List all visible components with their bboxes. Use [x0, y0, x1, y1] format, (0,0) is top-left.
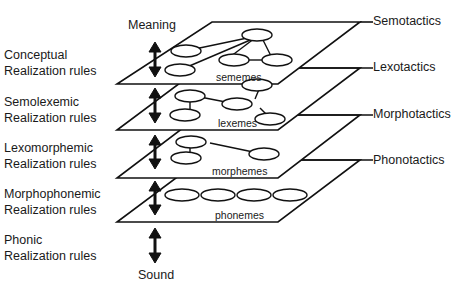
semolexemic-rules: Semolexemic Realization rules — [4, 94, 96, 126]
morpheme-node — [176, 136, 206, 148]
phoneme-node — [201, 189, 235, 201]
phonemes-label: phonemes — [215, 209, 264, 221]
phoneme-node — [165, 189, 199, 201]
lexeme-node — [255, 113, 285, 125]
lexeme-node — [222, 98, 252, 110]
morpheme-node — [171, 152, 201, 164]
conceptual-rules: Conceptual Realization rules — [4, 47, 96, 79]
phoneme-node — [273, 189, 307, 201]
lexeme-node — [175, 90, 205, 102]
sememe-node — [242, 29, 272, 41]
phoneme-node — [237, 189, 271, 201]
semotactics-label: Semotactics — [373, 13, 441, 29]
lexomorphemic-rules: Lexomorphemic Realization rules — [4, 140, 96, 172]
sememe-node — [165, 64, 195, 76]
lexeme-node — [170, 109, 200, 121]
lexemes-label: lexemes — [218, 117, 257, 129]
morphemes-label: morphemes — [212, 165, 267, 177]
sememe-node — [219, 54, 249, 66]
lexotactics-label: Lexotactics — [373, 59, 436, 75]
phonotactics-label: Phonotactics — [373, 152, 445, 168]
morphotactics-label: Morphotactics — [373, 106, 451, 122]
sound-label: Sound — [138, 267, 174, 283]
morpheme-node — [249, 148, 279, 160]
meaning-label: Meaning — [128, 17, 176, 33]
sememe-node — [171, 45, 201, 57]
morphophonemic-rules: Morphophonemic Realization rules — [4, 186, 101, 218]
phonic-rules: Phonic Realization rules — [4, 232, 96, 264]
double-arrow-icon — [149, 228, 161, 263]
sememes-label: sememes — [216, 71, 262, 83]
sememe-node — [262, 54, 292, 66]
